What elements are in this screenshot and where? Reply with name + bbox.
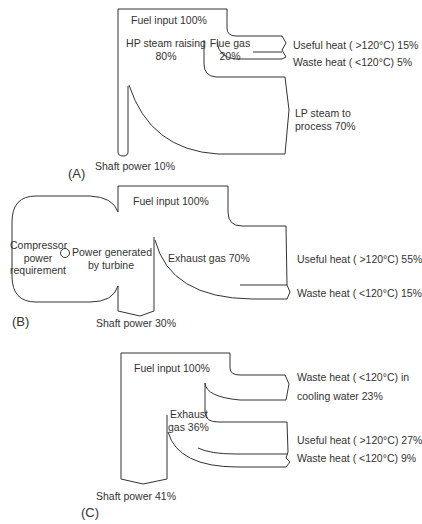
diagram-b-exhaust-gas-label: Exhaust gas 70% (168, 252, 250, 265)
diagram-a-lp-steam-line2: process 70% (295, 120, 356, 133)
diagram-c-useful-divider (198, 448, 288, 454)
diagram-b-useful-heat-label: Useful heat ( >120°C) 55% (297, 253, 422, 266)
diagram-c-exhaust-line2: gas 36% (168, 421, 209, 434)
diagram-a-flue-gas-line1: Flue gas (206, 37, 254, 50)
diagram-c-exhaust-label: Exhaust gas 36% (168, 408, 209, 433)
diagram-b-compressor-line3: requirement (10, 264, 66, 277)
diagram-b-compressor-label: Compressor power requirement (10, 239, 66, 277)
diagram-c-cooling-line1-label: Waste heat ( <120°C) in (297, 371, 409, 384)
diagram-a-lp-steam-line1: LP steam to (295, 107, 356, 120)
diagram-c-exhaust-line1: Exhaust (168, 408, 209, 421)
diagram-a-hp-steam-line2: 80% (126, 50, 206, 63)
diagram-b-shaft-power-label: Shaft power 30% (96, 317, 176, 330)
diagram-a-lp-steam-label: LP steam to process 70% (295, 107, 356, 132)
diagram-b-power-gen-line1: Power generated (72, 246, 150, 259)
diagram-c-useful-heat-label: Useful heat ( >120°C) 27% (297, 434, 422, 447)
diagram-c-waste-heat-label: Waste heat ( <120°C) 9% (297, 452, 416, 465)
diagram-a-useful-heat-label: Useful heat ( >120°C) 15% (293, 39, 418, 52)
diagram-a-waste-heat-label: Waste heat ( <120°C) 5% (293, 56, 412, 69)
diagram-a-hp-steam-line1: HP steam raising (126, 37, 206, 50)
diagram-b-waste-heat-label: Waste heat ( <120°C) 15% (297, 287, 422, 300)
diagram-b-compressor-line1: Compressor (10, 239, 66, 252)
diagram-b-power-generated-label: Power generated by turbine (72, 246, 150, 271)
diagram-a-fuel-input-label: Fuel input 100% (131, 14, 207, 27)
diagram-a-flue-gas-line2: 20% (206, 50, 254, 63)
diagram-a-shaft-power-label: Shaft power 10% (95, 160, 175, 173)
diagram-c-panel-label: (C) (81, 505, 99, 520)
diagram-b-fuel-input-label: Fuel input 100% (133, 195, 209, 208)
diagram-b-panel-label: (B) (12, 314, 29, 329)
diagram-a (118, 9, 289, 156)
diagram-a-panel-label: (A) (68, 166, 85, 181)
diagram-c-cooling-line2-label: cooling water 23% (297, 390, 383, 403)
diagram-b-compressor-line2: power (10, 252, 66, 265)
diagram-a-flue-gas-label: Flue gas 20% (206, 37, 254, 62)
diagram-b-power-gen-line2: by turbine (72, 259, 150, 272)
diagram-c-shaft-power-label: Shaft power 41% (96, 490, 176, 503)
diagram-a-left-boundary (118, 9, 128, 156)
diagram-c-fuel-input-label: Fuel input 100% (134, 362, 210, 375)
diagram-a-hp-steam-label: HP steam raising 80% (126, 37, 206, 62)
